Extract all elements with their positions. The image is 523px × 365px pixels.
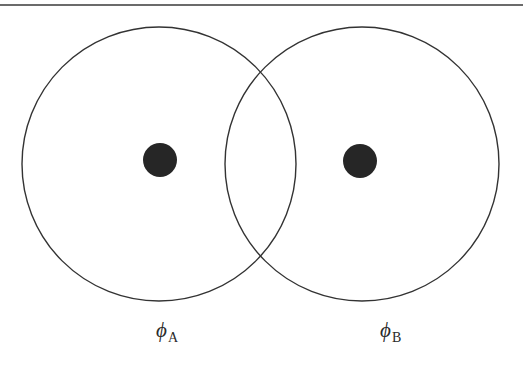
orbital-label-phi-b: ϕB bbox=[380, 320, 401, 341]
orbital-overlap-diagram bbox=[0, 0, 523, 365]
nucleus-b-dot bbox=[343, 144, 377, 178]
orbital-label-phi-a: ϕA bbox=[156, 320, 178, 341]
phi-symbol: ϕ bbox=[380, 318, 391, 342]
nucleus-a-dot bbox=[143, 143, 177, 177]
subscript-a: A bbox=[168, 330, 178, 345]
subscript-b: B bbox=[392, 330, 401, 345]
phi-symbol: ϕ bbox=[156, 318, 167, 342]
